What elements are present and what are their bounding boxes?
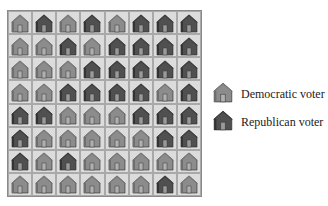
house-light-icon xyxy=(107,13,127,33)
grid-cell xyxy=(153,173,177,196)
grid-cell xyxy=(32,127,56,150)
house-light-icon xyxy=(34,151,54,171)
house-dark-icon xyxy=(179,59,199,79)
grid-cell xyxy=(105,34,129,57)
house-light-icon xyxy=(10,59,30,79)
grid-cell xyxy=(80,34,104,57)
grid-cell xyxy=(177,104,201,127)
grid-cell xyxy=(32,173,56,196)
grid-cell xyxy=(177,34,201,57)
house-light-icon xyxy=(107,128,127,148)
grid-cell xyxy=(177,173,201,196)
house-light-icon xyxy=(107,105,127,125)
house-dark-icon xyxy=(131,13,151,33)
voter-grid xyxy=(7,10,202,197)
grid-cell xyxy=(56,173,80,196)
grid-cell xyxy=(177,57,201,80)
grid-cell xyxy=(56,57,80,80)
grid-cell xyxy=(129,34,153,57)
grid-cell xyxy=(105,80,129,103)
grid-cell xyxy=(177,150,201,173)
grid-cell xyxy=(105,173,129,196)
house-dark-icon xyxy=(58,36,78,56)
house-dark-icon xyxy=(58,82,78,102)
house-dark-icon xyxy=(212,109,241,135)
house-light-icon xyxy=(82,105,102,125)
house-dark-icon xyxy=(155,13,175,33)
house-dark-icon xyxy=(10,105,30,125)
house-dark-icon xyxy=(107,59,127,79)
grid-cell xyxy=(8,80,32,103)
house-dark-icon xyxy=(155,128,175,148)
grid-cell xyxy=(129,57,153,80)
legend-label-democratic: Democratic voter xyxy=(241,87,325,102)
house-light-icon xyxy=(131,128,151,148)
house-dark-icon xyxy=(131,36,151,56)
grid-cell xyxy=(129,127,153,150)
grid-cell xyxy=(105,104,129,127)
house-light-icon xyxy=(179,174,199,194)
grid-cell xyxy=(32,57,56,80)
grid-cell xyxy=(32,104,56,127)
house-light-icon xyxy=(58,59,78,79)
legend-item-republican: Republican voter xyxy=(212,108,325,136)
grid-cell xyxy=(8,127,32,150)
grid-cell xyxy=(177,127,201,150)
house-light-icon xyxy=(82,174,102,194)
house-light-icon xyxy=(107,174,127,194)
house-dark-icon xyxy=(107,82,127,102)
house-dark-icon xyxy=(179,82,199,102)
grid-cell xyxy=(56,34,80,57)
grid-cell xyxy=(80,173,104,196)
grid-cell xyxy=(105,57,129,80)
house-light-icon xyxy=(82,128,102,148)
house-dark-icon xyxy=(34,13,54,33)
house-light-icon xyxy=(10,13,30,33)
grid-cell xyxy=(129,150,153,173)
house-dark-icon xyxy=(155,36,175,56)
house-light-icon xyxy=(34,82,54,102)
house-dark-icon xyxy=(82,13,102,33)
house-light-icon xyxy=(10,36,30,56)
house-dark-icon xyxy=(179,36,199,56)
house-light-icon xyxy=(58,128,78,148)
grid-cell xyxy=(153,11,177,34)
house-light-icon xyxy=(82,36,102,56)
house-light-icon xyxy=(131,151,151,171)
grid-cell xyxy=(8,34,32,57)
house-dark-icon xyxy=(155,59,175,79)
house-light-icon xyxy=(58,105,78,125)
grid-cell xyxy=(8,104,32,127)
grid-cell xyxy=(177,11,201,34)
house-dark-icon xyxy=(107,36,127,56)
house-light-icon xyxy=(212,81,241,107)
grid-cell xyxy=(56,11,80,34)
grid-cell xyxy=(8,173,32,196)
grid-cell xyxy=(129,104,153,127)
legend-item-democratic: Democratic voter xyxy=(212,80,325,108)
grid-cell xyxy=(8,57,32,80)
grid-cell xyxy=(56,150,80,173)
house-light-icon xyxy=(131,174,151,194)
grid-cell xyxy=(56,80,80,103)
house-light-icon xyxy=(155,151,175,171)
grid-cell xyxy=(32,150,56,173)
grid-cell xyxy=(80,57,104,80)
house-dark-icon xyxy=(155,105,175,125)
house-light-icon xyxy=(179,151,199,171)
house-dark-icon xyxy=(131,59,151,79)
grid-cell xyxy=(80,11,104,34)
grid-cell xyxy=(129,80,153,103)
house-light-icon xyxy=(82,151,102,171)
house-light-icon xyxy=(10,174,30,194)
grid-cell xyxy=(153,57,177,80)
house-light-icon xyxy=(107,151,127,171)
legend-label-republican: Republican voter xyxy=(241,115,323,130)
grid-cell xyxy=(153,34,177,57)
grid-cell xyxy=(56,127,80,150)
grid-cell xyxy=(80,150,104,173)
legend: Democratic voter Republican voter xyxy=(212,80,325,136)
house-light-icon xyxy=(155,82,175,102)
grid-cell xyxy=(8,11,32,34)
grid-cell xyxy=(129,11,153,34)
